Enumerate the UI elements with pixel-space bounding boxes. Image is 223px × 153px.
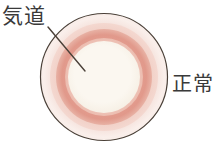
airway-cross-section-figure: 気道 正常: [0, 0, 223, 153]
concentric-ring-stack: [41, 14, 168, 141]
airway-label: 気道: [2, 6, 45, 27]
airway-lumen: [68, 41, 140, 113]
normal-status-label: 正常: [172, 74, 213, 94]
